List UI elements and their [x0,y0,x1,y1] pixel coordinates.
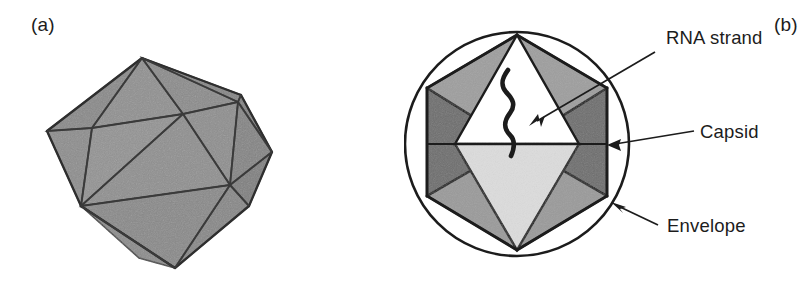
capsid-label: Capsid [700,121,759,142]
panel-a: (a) [0,0,404,285]
icosahedron-faces [47,58,272,268]
rna-strand-label: RNA strand [666,27,763,48]
envelope-leader-line [618,206,658,225]
figure-root: (a) [0,0,808,285]
panel-b: (b) [404,0,808,285]
envelope-arrowhead [611,202,626,213]
icosahedron-3d-graphic [0,0,404,285]
envelope-label: Envelope [667,215,746,236]
virus-cross-section-graphic: RNA strand Capsid Envelope [404,0,808,285]
